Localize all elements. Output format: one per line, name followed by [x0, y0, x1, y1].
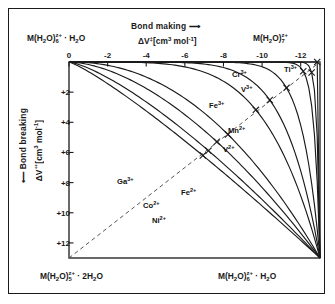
ion-label-Co2+: Co2+ [143, 200, 160, 210]
axis-tick-marks [69, 62, 301, 243]
ion-label-Fe2+: Fe2+ [181, 187, 197, 197]
marker-Ga3+ [214, 139, 220, 145]
ion-label-Ni2+: Ni2+ [152, 215, 167, 225]
ion-label-Mn2+: Mn2+ [228, 125, 246, 135]
ion-label-Fe3+: Fe3+ [209, 100, 225, 110]
ion-label-Ga3+: Ga3+ [117, 176, 134, 186]
synchronous-diagonal-line [69, 62, 320, 258]
marker-V3+ [300, 68, 306, 74]
plot-area: Ti3+Cr3+V3+Fe3+Mn2+V2+Fe2+Ga3+Co2+Ni2+ [0, 0, 335, 304]
ion-label-V3+: V3+ [241, 84, 253, 94]
reaction-coordinate-figure: Bond making ⟶ ΔV‡[cm3 mol-1] M(H2O)z+6 ·… [0, 0, 335, 304]
ion-label-Ti3+: Ti3+ [284, 64, 298, 74]
ion-labels: Ti3+Cr3+V3+Fe3+Mn2+V2+Fe2+Ga3+Co2+Ni2+ [117, 64, 298, 225]
ion-label-Cr3+: Cr3+ [232, 69, 248, 79]
marker-Fe3+ [283, 85, 289, 91]
marker-Mn2+ [267, 97, 273, 103]
